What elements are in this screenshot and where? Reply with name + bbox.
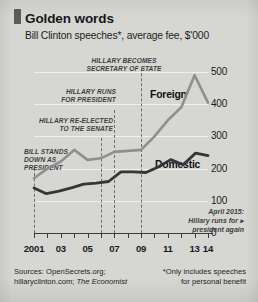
x-tick-mark xyxy=(141,234,142,238)
gridline xyxy=(34,104,208,105)
x-tick-mark xyxy=(88,234,89,238)
event-marker-bill-stands-down xyxy=(34,168,35,233)
annotation-bill-stands-down: BILL STANDS DOWN AS PRESIDENT xyxy=(24,148,88,172)
x-tick-label: 2001 xyxy=(24,243,45,254)
y-tick-label: 400 xyxy=(211,98,227,109)
x-tick-label: 13 xyxy=(189,243,199,254)
x-tick-label: 14 xyxy=(203,243,213,254)
y-tick-label: 200 xyxy=(211,163,227,174)
x-tick-label: 11 xyxy=(163,243,173,254)
sources-text: Sources: OpenSecrets.org; hillaryclinton… xyxy=(14,267,134,288)
event-marker-hillary-secretary-state xyxy=(141,68,142,233)
sources-site: hillaryclinton.com; xyxy=(14,277,76,286)
x-tick-label: 03 xyxy=(56,243,66,254)
callout-april-2015: April 2015: Hillary runs for ▸ president… xyxy=(160,207,244,234)
y-tick-label: 500 xyxy=(211,66,227,77)
x-tick-mark xyxy=(154,234,155,238)
x-tick-label: 07 xyxy=(109,243,119,254)
sources-line-2: hillaryclinton.com; The Economist xyxy=(14,277,134,287)
annotation-hillary-re-elected: HILLARY RE-ELECTED TO THE SENATE xyxy=(30,117,113,133)
chart-card: Golden words Bill Clinton speeches*, ave… xyxy=(0,0,258,302)
page-title: Golden words xyxy=(25,11,114,26)
x-tick-mark xyxy=(168,234,169,238)
y-tick-label: 300 xyxy=(211,130,227,141)
footnote-line-2: for personal benefit xyxy=(142,277,246,287)
x-tick-mark xyxy=(47,234,48,238)
x-tick-mark xyxy=(101,234,102,238)
series-label-foreign: Foreign xyxy=(150,89,187,100)
x-tick-mark xyxy=(181,234,182,238)
x-tick-mark xyxy=(34,234,35,238)
x-tick-mark xyxy=(61,234,62,238)
y-tick-label: 100 xyxy=(211,195,227,206)
x-tick-mark xyxy=(208,234,209,238)
x-tick-mark xyxy=(114,234,115,238)
sources-publication: The Economist xyxy=(76,277,127,286)
economist-accent-tab xyxy=(14,9,21,24)
chart-subtitle: Bill Clinton speeches*, average fee, $'0… xyxy=(25,30,209,41)
annotation-hillary-secretary-of-state: HILLARY BECOMES SECRETARY OF STATE xyxy=(82,57,166,73)
series-label-domestic: Domestic xyxy=(155,159,200,170)
x-tick-mark xyxy=(195,234,196,238)
event-marker-hillary-re-elected xyxy=(101,138,102,233)
x-tick-mark xyxy=(128,234,129,238)
x-tick-mark xyxy=(74,234,75,238)
footnote-line-1: *Only includes speeches xyxy=(142,267,246,277)
annotation-hillary-runs-for-president: HILLARY RUNS FOR PRESIDENT xyxy=(48,88,116,104)
x-tick-label: 05 xyxy=(82,243,92,254)
gridline xyxy=(34,136,208,137)
x-tick-label: 09 xyxy=(136,243,146,254)
gridline xyxy=(34,201,208,202)
footnote-text: *Only includes speeches for personal ben… xyxy=(142,267,246,288)
sources-line-1: Sources: OpenSecrets.org; xyxy=(14,267,134,277)
event-marker-hillary-runs-president xyxy=(114,110,115,233)
